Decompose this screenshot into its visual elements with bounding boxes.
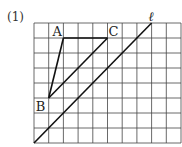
line-l-label: ℓ	[149, 9, 155, 24]
problem-number: (1)	[7, 10, 24, 24]
point-a-label: A	[51, 24, 62, 39]
point-c-label: C	[109, 24, 119, 39]
grid	[34, 23, 181, 143]
point-b-label: B	[36, 99, 46, 114]
grid-diagram: (1) A B C ℓ	[0, 0, 182, 147]
